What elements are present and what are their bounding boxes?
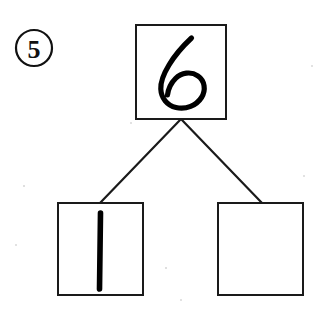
connector-line-left	[100, 119, 181, 203]
part-box-left[interactable]	[58, 203, 143, 295]
handwritten-digit-1	[100, 213, 101, 289]
question-number-label: 5	[28, 35, 41, 64]
part-box-right-outline[interactable]	[218, 203, 303, 295]
whole-box[interactable]	[136, 25, 226, 119]
question-number: 5	[16, 30, 52, 66]
part-box-right[interactable]	[218, 203, 303, 295]
number-bond-connectors	[100, 119, 262, 203]
connector-line-right	[181, 119, 262, 203]
worksheet-canvas: 5	[0, 0, 331, 312]
number-bond-worksheet: 5 6 1	[0, 0, 331, 312]
